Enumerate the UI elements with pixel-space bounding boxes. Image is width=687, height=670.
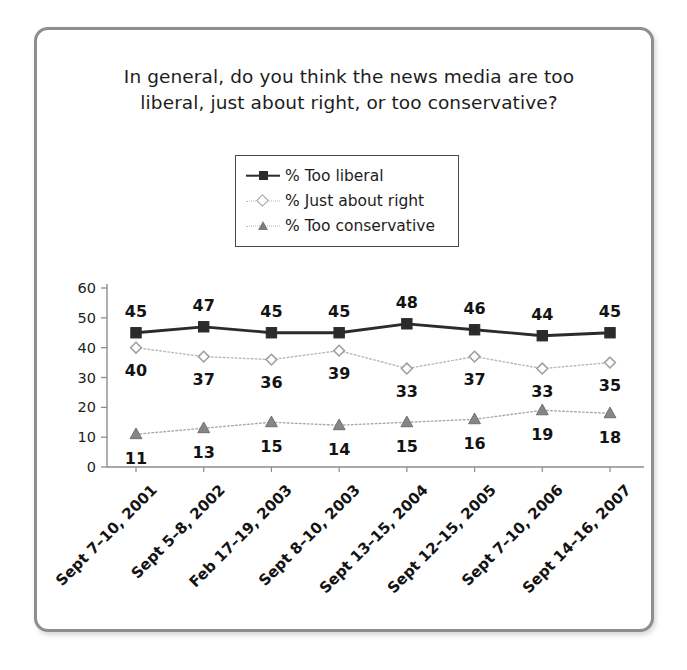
data-point-marker — [537, 331, 547, 341]
data-point-label: 48 — [396, 292, 418, 311]
data-point-marker — [266, 354, 277, 365]
y-tick-label: 30 — [62, 370, 96, 386]
y-tick-label: 40 — [62, 340, 96, 356]
data-point-marker — [266, 416, 278, 427]
data-point-label: 39 — [328, 363, 350, 382]
data-point-label: 15 — [396, 437, 418, 456]
data-point-label: 18 — [599, 428, 621, 447]
data-point-marker — [469, 351, 480, 362]
data-point-marker — [131, 342, 142, 353]
chart-page-frame: In general, do you think the news media … — [34, 27, 654, 632]
data-point-label: 13 — [193, 443, 215, 462]
data-point-marker — [401, 363, 412, 374]
data-point-label: 36 — [260, 372, 282, 391]
data-point-label: 37 — [193, 369, 215, 388]
data-point-label: 40 — [125, 360, 147, 379]
data-point-label: 45 — [328, 301, 350, 320]
data-point-label: 46 — [463, 298, 485, 317]
data-point-marker — [199, 322, 209, 332]
data-point-marker — [266, 328, 276, 338]
data-point-marker — [537, 363, 548, 374]
y-tick-label: 0 — [62, 459, 96, 475]
data-point-marker — [401, 416, 413, 427]
data-point-marker — [605, 357, 616, 368]
data-point-label: 19 — [531, 425, 553, 444]
data-point-marker — [605, 328, 615, 338]
data-point-label: 33 — [531, 381, 553, 400]
data-point-label: 35 — [599, 375, 621, 394]
y-tick-label: 20 — [62, 399, 96, 415]
data-point-label: 11 — [125, 449, 147, 468]
data-point-label: 45 — [260, 301, 282, 320]
data-point-marker — [334, 328, 344, 338]
data-point-label: 45 — [125, 301, 147, 320]
data-point-label: 44 — [531, 304, 553, 323]
data-point-marker — [469, 325, 479, 335]
data-point-marker — [131, 328, 141, 338]
data-point-marker — [604, 407, 616, 418]
data-point-label: 47 — [193, 295, 215, 314]
y-tick-label: 50 — [62, 310, 96, 326]
chart-card: In general, do you think the news media … — [37, 30, 651, 629]
data-point-marker — [334, 345, 345, 356]
data-point-marker — [536, 404, 548, 415]
data-point-label: 16 — [463, 434, 485, 453]
data-point-marker — [402, 319, 412, 329]
data-point-label: 14 — [328, 440, 350, 459]
data-point-marker — [198, 351, 209, 362]
data-point-label: 15 — [260, 437, 282, 456]
plot-area: 6050403020100 45474545484644454037363933… — [37, 30, 657, 635]
data-point-label: 45 — [599, 301, 621, 320]
data-point-label: 33 — [396, 381, 418, 400]
y-tick-label: 60 — [62, 280, 96, 296]
data-point-label: 37 — [463, 369, 485, 388]
y-tick-label: 10 — [62, 429, 96, 445]
